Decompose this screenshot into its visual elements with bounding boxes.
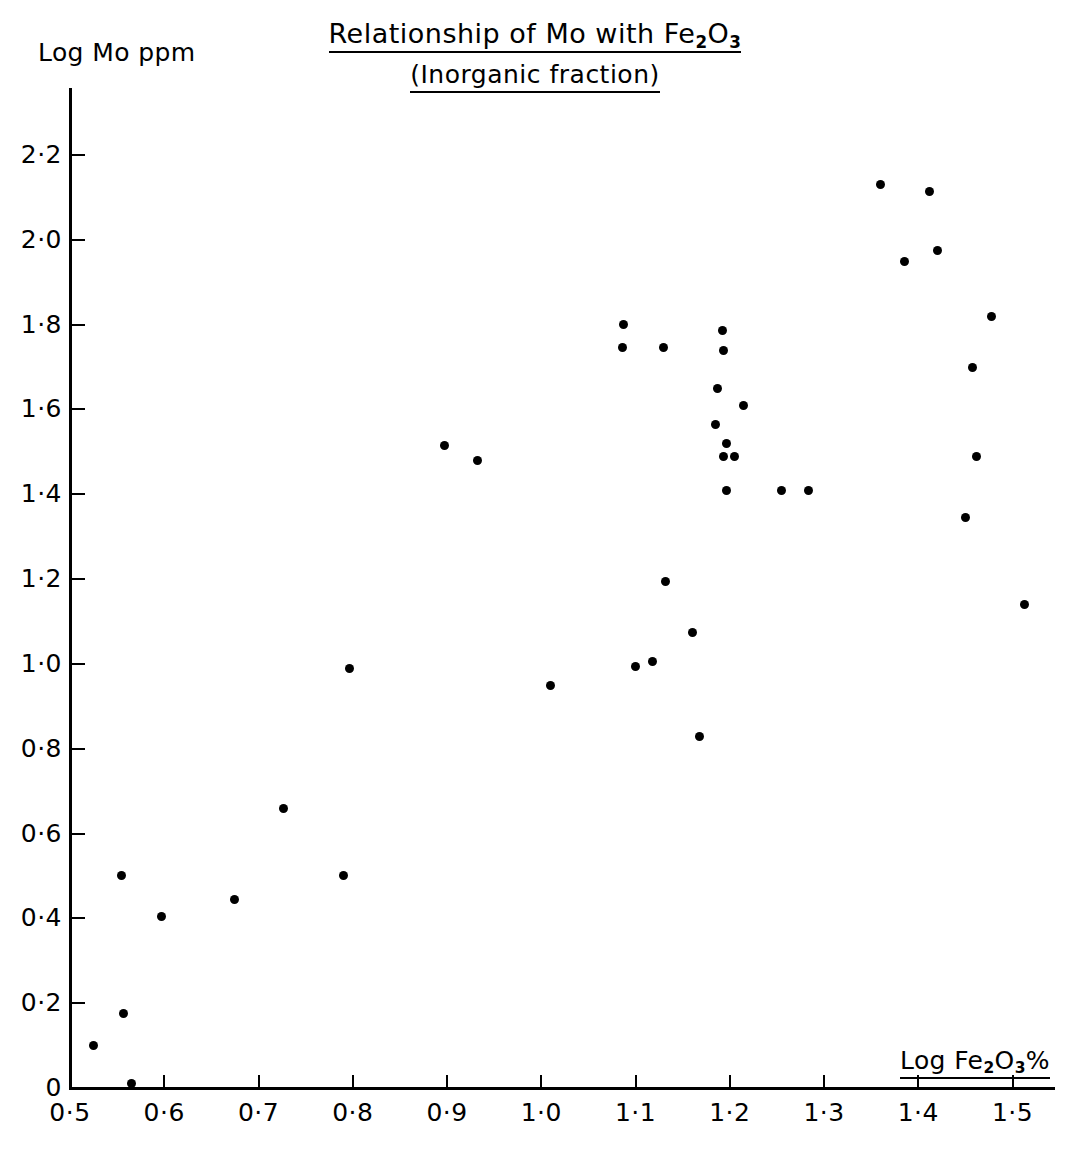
data-point [688,628,697,637]
y-tick-label: 1·0 [0,649,62,678]
data-point [933,246,942,255]
data-point [876,180,885,189]
data-point [619,320,628,329]
x-tick-label: 0·6 [119,1098,209,1127]
y-tick-label: 0·2 [0,988,62,1017]
data-point [777,486,786,495]
data-point [618,343,627,352]
x-tick-label: 0·8 [308,1098,398,1127]
data-point [661,577,670,586]
data-point [648,657,657,666]
data-point [719,452,728,461]
subscript: 2 [695,32,707,52]
y-tick-label: 0·6 [0,819,62,848]
data-point [440,441,449,450]
data-point [631,662,640,671]
data-point [157,912,166,921]
data-point [722,439,731,448]
data-point [339,871,348,880]
data-point [695,732,704,741]
data-point [711,420,720,429]
data-point [117,871,126,880]
data-point [718,326,727,335]
y-tick-label: 1·4 [0,479,62,508]
subscript: 3 [729,32,741,52]
data-point [1020,600,1029,609]
data-point [739,401,748,410]
x-tick-label: 1·4 [873,1098,963,1127]
data-point [546,681,555,690]
x-tick-label: 0·9 [402,1098,492,1127]
data-point [961,513,970,522]
data-point [925,187,934,196]
data-point [659,343,668,352]
x-tick-label: 1·0 [496,1098,586,1127]
plot-area [70,88,1054,1088]
y-tick-label: 0·8 [0,734,62,763]
scatter-plot-figure: Relationship of Mo with Fe2O3 (Inorganic… [0,0,1070,1175]
y-tick-label: 2·2 [0,140,62,169]
y-tick-label: 2·0 [0,225,62,254]
data-point [968,363,977,372]
data-point [345,664,354,673]
data-point [279,804,288,813]
x-tick-label: 1·3 [779,1098,869,1127]
data-point [730,452,739,461]
data-point [900,257,909,266]
y-tick-label: 0·4 [0,903,62,932]
y-tick-label: 1·2 [0,564,62,593]
y-tick-label: 1·6 [0,394,62,423]
data-point [987,312,996,321]
data-point [119,1009,128,1018]
data-point [804,486,813,495]
data-point [230,895,239,904]
data-point [473,456,482,465]
data-point [972,452,981,461]
y-axis-label: Log Mo ppm [38,38,196,67]
data-point [127,1079,136,1088]
x-tick-label: 1·2 [685,1098,775,1127]
data-point [722,486,731,495]
y-tick-label: 1·8 [0,310,62,339]
data-point [713,384,722,393]
data-point [89,1041,98,1050]
data-point [719,346,728,355]
x-tick-label: 0·5 [25,1098,115,1127]
x-tick-label: 0·7 [214,1098,304,1127]
x-tick-label: 1·1 [591,1098,681,1127]
x-tick-label: 1·5 [968,1098,1058,1127]
